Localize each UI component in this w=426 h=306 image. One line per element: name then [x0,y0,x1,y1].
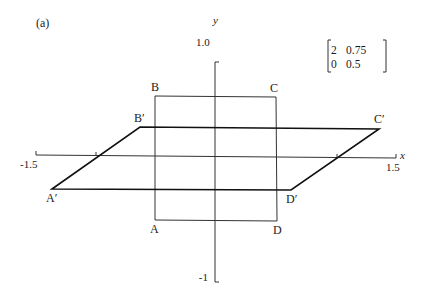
matrix-r1c1: 2 [331,44,337,56]
y-axis-label: y [212,14,218,26]
x-axis-label: x [399,149,405,161]
matrix-r2c1: 0 [331,58,337,70]
y-axis: y 1.0 -1 [196,14,219,283]
y-tick-top: 1.0 [196,36,210,48]
y-tick-bottom: -1 [199,271,208,283]
vertex-label-b: B [151,80,159,94]
transformation-matrix: 2 0.75 0 0.5 [328,40,386,72]
x-axis: x -1.5 1.5 [20,149,405,173]
x-tick-right: 1.5 [386,161,400,173]
matrix-r2c2: 0.5 [346,58,361,70]
matrix-r1c2: 0.75 [346,44,366,56]
matrix-right-bracket [383,40,386,72]
vertex-label-d-prime: D′ [286,192,298,206]
transformed-parallelogram: B′ C′ A′ D′ [46,111,385,206]
original-square: B C A D [150,80,282,237]
vertex-label-c: C [270,81,278,95]
x-tick-left: -1.5 [20,158,38,170]
diagram-canvas: (a) y 1.0 -1 x -1.5 1.5 B C A D B′ C′ A′… [0,0,426,306]
vertex-label-a: A [150,222,159,236]
vertex-label-c-prime: C′ [374,112,385,126]
panel-label: (a) [36,16,49,30]
vertex-label-b-prime: B′ [134,111,145,125]
vertex-label-a-prime: A′ [46,191,58,205]
vertex-label-d: D [273,223,282,237]
